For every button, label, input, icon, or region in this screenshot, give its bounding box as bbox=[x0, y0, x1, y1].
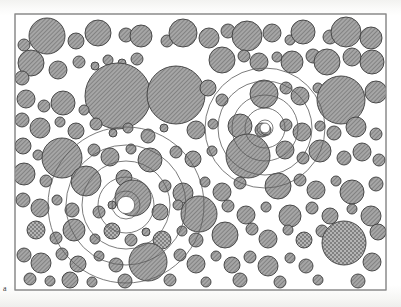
particle-circle bbox=[238, 50, 250, 62]
particle-circle bbox=[27, 221, 45, 239]
particle-circle bbox=[31, 253, 51, 273]
particle-circle bbox=[331, 17, 361, 47]
particle-circle bbox=[13, 163, 35, 185]
particle-circle bbox=[30, 118, 50, 138]
particle-circle bbox=[216, 94, 228, 106]
particle-circle bbox=[45, 276, 55, 286]
particle-circle bbox=[209, 47, 235, 73]
particle-circle bbox=[360, 50, 384, 74]
particle-circle bbox=[51, 91, 75, 115]
particle-circle bbox=[91, 62, 99, 70]
particle-circle bbox=[94, 251, 104, 261]
particle-circle bbox=[232, 21, 262, 51]
particle-circle bbox=[331, 176, 341, 186]
particle-circle bbox=[306, 202, 318, 214]
particle-circle bbox=[62, 272, 78, 288]
particle-circle bbox=[373, 154, 385, 166]
particle-circle bbox=[274, 276, 286, 288]
particle-circle bbox=[265, 173, 291, 199]
particle-circle bbox=[250, 80, 278, 108]
particle-circle bbox=[199, 28, 219, 48]
particle-circle bbox=[322, 221, 366, 265]
particle-circle bbox=[211, 251, 221, 261]
particle-circle bbox=[244, 251, 256, 263]
particle-circle bbox=[237, 206, 255, 224]
particle-circle bbox=[68, 33, 84, 49]
particle-circle bbox=[351, 274, 365, 288]
particle-circle bbox=[285, 253, 295, 263]
particle-circle bbox=[258, 256, 278, 276]
particle-circle bbox=[170, 146, 182, 158]
particle-circle bbox=[49, 61, 67, 79]
particle-circle bbox=[31, 199, 49, 217]
particle-circle bbox=[142, 228, 150, 236]
particle-circle bbox=[370, 224, 386, 240]
particle-circle bbox=[17, 248, 31, 262]
particle-circle bbox=[361, 206, 381, 226]
particle-circle bbox=[363, 253, 381, 271]
particle-circle bbox=[50, 232, 62, 244]
particle-circle bbox=[222, 200, 234, 212]
particle-circle bbox=[213, 183, 231, 201]
particle-circle bbox=[340, 180, 364, 204]
particle-circle bbox=[337, 151, 351, 165]
particle-circle bbox=[63, 219, 85, 241]
particle-circle bbox=[307, 181, 325, 199]
particle-circle bbox=[370, 128, 382, 140]
particle-circle bbox=[201, 277, 211, 287]
particle-circle bbox=[276, 141, 294, 159]
particle-circle bbox=[29, 18, 65, 54]
particle-circle bbox=[314, 49, 340, 75]
particle-circle bbox=[90, 118, 102, 130]
particle-circle bbox=[125, 234, 137, 246]
particle-circle bbox=[293, 123, 311, 141]
particle-circle bbox=[131, 53, 143, 65]
particle-circle bbox=[346, 117, 366, 137]
particle-circle bbox=[18, 39, 30, 51]
particle-circle bbox=[16, 193, 30, 207]
particle-circle bbox=[343, 48, 361, 66]
particle-circle bbox=[322, 208, 338, 224]
particle-circle bbox=[291, 20, 315, 44]
particle-circle bbox=[17, 90, 35, 108]
panel-label: a bbox=[3, 284, 7, 293]
particle-circle bbox=[169, 19, 197, 47]
particle-circle bbox=[272, 52, 282, 62]
particle-circle bbox=[259, 230, 277, 248]
particle-circle bbox=[233, 273, 247, 287]
particle-circle bbox=[360, 27, 382, 49]
particle-circle bbox=[369, 177, 383, 191]
particle-circle bbox=[212, 222, 238, 248]
particle-circle bbox=[24, 273, 36, 285]
particle-circle bbox=[160, 124, 168, 132]
particle-circle bbox=[299, 259, 313, 273]
particle-circle bbox=[294, 174, 306, 186]
particle-circle bbox=[85, 20, 111, 46]
particle-circle bbox=[55, 117, 65, 127]
particle-circle bbox=[70, 256, 86, 272]
particle-circle bbox=[147, 66, 205, 124]
particle-circle bbox=[279, 205, 301, 227]
particle-circle bbox=[297, 152, 309, 164]
particle-circle bbox=[174, 249, 186, 261]
particle-circle bbox=[118, 274, 132, 288]
particle-circle bbox=[123, 123, 133, 133]
particle-circle bbox=[224, 257, 240, 273]
particle-circle bbox=[52, 195, 62, 205]
particle-circle bbox=[73, 56, 85, 68]
particle-circle bbox=[296, 232, 312, 248]
particle-circle bbox=[15, 113, 29, 127]
particle-circle bbox=[68, 123, 84, 139]
particle-circle bbox=[33, 150, 43, 160]
particle-circle bbox=[71, 166, 101, 196]
particle-circle bbox=[291, 87, 309, 105]
particle-circle bbox=[315, 121, 325, 131]
particle-circle bbox=[87, 277, 97, 287]
particle-circle bbox=[79, 105, 89, 115]
particle-circle bbox=[141, 129, 155, 143]
particle-circle bbox=[281, 51, 303, 73]
particle-circle bbox=[187, 121, 205, 139]
particle-circle bbox=[246, 223, 258, 235]
particle-circle bbox=[129, 243, 167, 281]
particle-circle bbox=[109, 129, 117, 137]
